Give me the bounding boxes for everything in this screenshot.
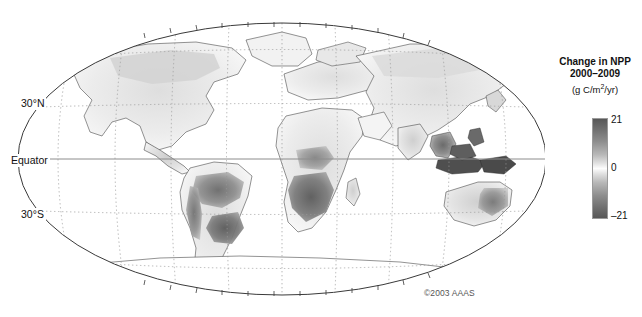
lat-label-30s: 30°S xyxy=(20,208,46,221)
colorbar-tick-mid: 0 xyxy=(611,163,617,173)
npp-change-figure: 30°N Equator 30°S ©2003 AAAS Change in N… xyxy=(0,0,642,317)
legend-title-line2: 2000–2009 xyxy=(548,68,642,80)
legend-units-prefix: (g C/m xyxy=(572,84,601,95)
lat-label-equator: Equator xyxy=(10,154,50,167)
colorbar-tick-max: 21 xyxy=(611,115,622,125)
legend-title-line1: Change in NPP xyxy=(548,56,642,68)
colorbar-tick-min: –21 xyxy=(611,211,628,221)
legend-units-suffix: /yr) xyxy=(604,84,618,95)
copyright-credit: ©2003 AAAS xyxy=(424,288,475,298)
world-map-svg xyxy=(0,0,545,317)
lat-label-30n: 30°N xyxy=(20,97,46,110)
world-map-panel: 30°N Equator 30°S xyxy=(0,0,545,317)
legend-units: (g C/m2/yr) xyxy=(548,84,642,96)
colorbar-wrapper: 21 0 –21 xyxy=(592,118,642,223)
colorbar-gradient xyxy=(592,118,608,219)
legend-panel: Change in NPP 2000–2009 (g C/m2/yr) 21 0… xyxy=(548,56,642,231)
land-new-zealand xyxy=(522,212,540,232)
